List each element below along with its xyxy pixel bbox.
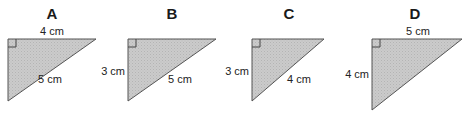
triangle-d-shape <box>372 39 462 110</box>
triangle-d-top-side-label: 5 cm <box>406 25 430 37</box>
triangle-a: A 4 cm 5 cm <box>8 5 96 101</box>
triangle-d: D 5 cm 4 cm <box>345 5 462 110</box>
triangle-c: C 3 cm 4 cm <box>225 5 324 101</box>
triangle-c-shape <box>252 39 324 101</box>
triangle-b-hypotenuse-label: 5 cm <box>168 73 192 85</box>
triangle-a-hypotenuse-label: 5 cm <box>38 73 62 85</box>
triangle-c-title: C <box>284 5 295 22</box>
triangles-figure: A 4 cm 5 cm B 3 cm 5 cm C 3 cm 4 cm D 5 … <box>0 0 473 119</box>
triangle-b: B 3 cm 5 cm <box>101 5 216 101</box>
triangle-d-title: D <box>410 5 421 22</box>
triangle-a-shape <box>8 39 96 101</box>
triangle-d-left-side-label: 4 cm <box>345 68 369 80</box>
triangle-a-top-side-label: 4 cm <box>40 25 64 37</box>
triangle-b-shape <box>128 39 216 101</box>
triangle-c-left-side-label: 3 cm <box>225 65 249 77</box>
triangle-b-left-side-label: 3 cm <box>101 65 125 77</box>
triangle-c-hypotenuse-label: 4 cm <box>287 73 311 85</box>
triangle-a-title: A <box>47 5 58 22</box>
triangle-b-title: B <box>167 5 178 22</box>
